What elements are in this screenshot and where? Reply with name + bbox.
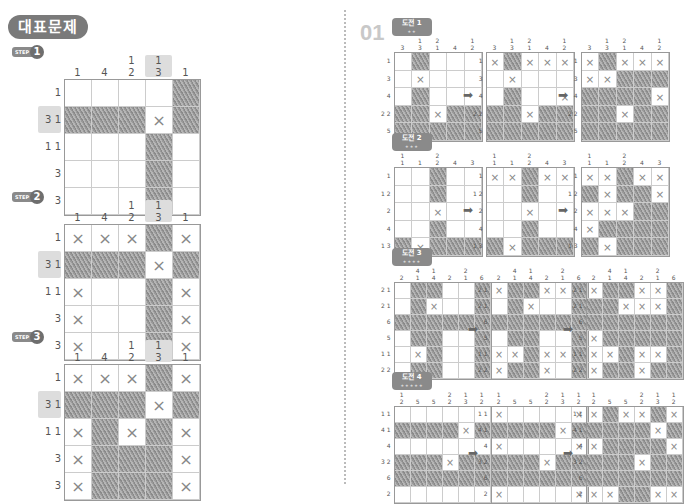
filled-cell[interactable] [173, 252, 200, 279]
filled-cell[interactable] [582, 238, 600, 256]
empty-cell[interactable] [540, 439, 556, 455]
empty-cell[interactable] [504, 221, 522, 239]
empty-cell[interactable] [411, 487, 427, 503]
crossed-cell[interactable]: × [65, 473, 92, 500]
crossed-cell[interactable]: × [619, 407, 635, 423]
empty-cell[interactable] [395, 487, 411, 503]
crossed-cell[interactable]: × [492, 347, 508, 363]
filled-cell[interactable] [599, 106, 617, 124]
crossed-cell[interactable]: × [635, 407, 651, 423]
filled-cell[interactable] [411, 283, 427, 299]
empty-cell[interactable] [65, 161, 92, 188]
filled-cell[interactable] [447, 238, 465, 256]
crossed-cell[interactable]: × [92, 365, 119, 392]
filled-cell[interactable] [599, 221, 617, 239]
crossed-cell[interactable]: × [492, 407, 508, 423]
crossed-cell[interactable]: × [634, 53, 652, 71]
crossed-cell[interactable]: × [617, 53, 635, 71]
empty-cell[interactable] [492, 299, 508, 315]
filled-cell[interactable] [635, 487, 651, 503]
empty-cell[interactable] [487, 71, 505, 89]
filled-cell[interactable] [508, 471, 524, 487]
empty-cell[interactable] [443, 347, 459, 363]
crossed-cell[interactable]: × [173, 279, 200, 306]
filled-cell[interactable] [603, 331, 619, 347]
crossed-cell[interactable]: × [587, 347, 603, 363]
filled-cell[interactable] [146, 473, 173, 500]
crossed-cell[interactable]: × [504, 168, 522, 186]
crossed-cell[interactable]: × [587, 439, 603, 455]
filled-cell[interactable] [667, 363, 683, 379]
filled-cell[interactable] [540, 471, 556, 487]
crossed-cell[interactable]: × [587, 363, 603, 379]
filled-cell[interactable] [651, 439, 667, 455]
filled-cell[interactable] [173, 107, 200, 134]
filled-cell[interactable] [508, 299, 524, 315]
empty-cell[interactable] [508, 439, 524, 455]
empty-cell[interactable] [92, 134, 119, 161]
empty-cell[interactable] [92, 80, 119, 107]
crossed-cell[interactable]: × [599, 186, 617, 204]
filled-cell[interactable] [619, 487, 635, 503]
empty-cell[interactable] [92, 306, 119, 333]
crossed-cell[interactable]: × [173, 446, 200, 473]
crossed-cell[interactable]: × [587, 331, 603, 347]
filled-cell[interactable] [524, 455, 540, 471]
filled-cell[interactable] [92, 419, 119, 446]
empty-cell[interactable] [427, 407, 443, 423]
filled-cell[interactable] [617, 186, 635, 204]
filled-cell[interactable] [587, 299, 603, 315]
filled-cell[interactable] [487, 238, 505, 256]
crossed-cell[interactable]: × [582, 71, 600, 89]
crossed-cell[interactable]: × [635, 363, 651, 379]
filled-cell[interactable] [487, 106, 505, 124]
crossed-cell[interactable]: × [522, 53, 540, 71]
filled-cell[interactable] [173, 80, 200, 107]
filled-cell[interactable] [603, 363, 619, 379]
filled-cell[interactable] [447, 106, 465, 124]
empty-cell[interactable] [92, 161, 119, 188]
filled-cell[interactable] [617, 168, 635, 186]
crossed-cell[interactable]: × [582, 53, 600, 71]
empty-cell[interactable] [508, 487, 524, 503]
empty-cell[interactable] [395, 331, 411, 347]
filled-cell[interactable] [146, 419, 173, 446]
filled-cell[interactable] [430, 168, 448, 186]
crossed-cell[interactable]: × [492, 487, 508, 503]
filled-cell[interactable] [634, 88, 652, 106]
crossed-cell[interactable]: × [539, 53, 557, 71]
empty-cell[interactable] [119, 134, 146, 161]
crossed-cell[interactable]: × [492, 283, 508, 299]
empty-cell[interactable] [443, 487, 459, 503]
filled-cell[interactable] [587, 471, 603, 487]
empty-cell[interactable] [173, 134, 200, 161]
empty-cell[interactable] [487, 203, 505, 221]
empty-cell[interactable] [119, 161, 146, 188]
filled-cell[interactable] [582, 123, 600, 141]
crossed-cell[interactable]: × [65, 446, 92, 473]
filled-cell[interactable] [92, 392, 119, 419]
empty-cell[interactable] [411, 407, 427, 423]
filled-cell[interactable] [146, 306, 173, 333]
empty-cell[interactable] [395, 283, 411, 299]
filled-cell[interactable] [634, 238, 652, 256]
empty-cell[interactable] [395, 168, 413, 186]
filled-cell[interactable] [634, 221, 652, 239]
crossed-cell[interactable]: × [587, 407, 603, 423]
empty-cell[interactable] [395, 299, 411, 315]
crossed-cell[interactable]: × [667, 487, 683, 503]
crossed-cell[interactable]: × [667, 439, 683, 455]
filled-cell[interactable] [395, 106, 413, 124]
crossed-cell[interactable]: × [651, 423, 667, 439]
crossed-cell[interactable]: × [504, 71, 522, 89]
filled-cell[interactable] [539, 106, 557, 124]
crossed-cell[interactable]: × [173, 306, 200, 333]
crossed-cell[interactable]: × [65, 225, 92, 252]
filled-cell[interactable] [92, 252, 119, 279]
crossed-cell[interactable]: × [412, 71, 430, 89]
empty-cell[interactable] [395, 203, 413, 221]
crossed-cell[interactable]: × [651, 283, 667, 299]
crossed-cell[interactable]: × [487, 53, 505, 71]
empty-cell[interactable] [459, 407, 475, 423]
empty-cell[interactable] [447, 71, 465, 89]
